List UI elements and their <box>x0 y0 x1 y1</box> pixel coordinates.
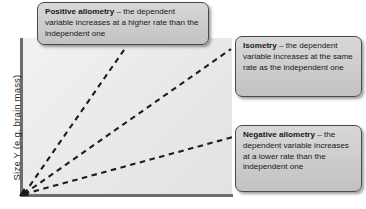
callout-isometry: Isometry – the dependent variable increa… <box>235 36 362 97</box>
callout-negative-allometry: Negative allometry – the dependent varia… <box>235 125 362 192</box>
callout-positive-allometry: Positive allometry – the dependent varia… <box>37 2 209 45</box>
callout-separator-isometry: – <box>279 41 284 50</box>
callout-title-negative: Negative allometry <box>243 130 315 139</box>
callout-separator-negative: – <box>317 130 322 139</box>
x-axis-line <box>20 194 233 197</box>
callout-title-positive: Positive allometry <box>45 7 114 16</box>
callout-title-isometry: Isometry <box>243 41 277 50</box>
plot-area <box>23 38 232 196</box>
allometry-diagram: Size Y (e.g. brain mass) Positive allome… <box>0 0 366 209</box>
y-axis-label: Size Y (e.g. brain mass) <box>11 58 22 198</box>
callout-separator-positive: – <box>117 7 122 16</box>
